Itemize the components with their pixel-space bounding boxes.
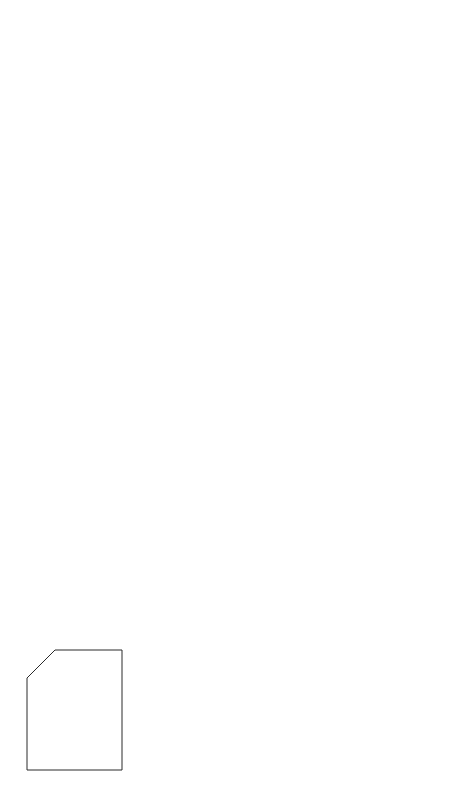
row-strategic [27,650,122,770]
value-chain-diagram [0,0,471,788]
strategic-input-node [27,650,122,770]
